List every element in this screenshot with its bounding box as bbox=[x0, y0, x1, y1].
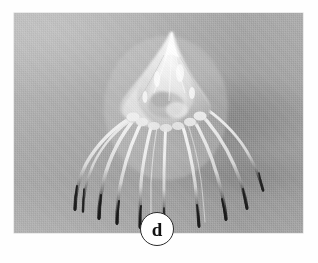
specimen-photograph bbox=[14, 13, 303, 233]
specimen-illustration bbox=[14, 13, 303, 233]
figure-panel: d bbox=[0, 0, 318, 263]
panel-label-badge: d bbox=[140, 212, 174, 246]
panel-label-letter: d bbox=[152, 219, 163, 238]
